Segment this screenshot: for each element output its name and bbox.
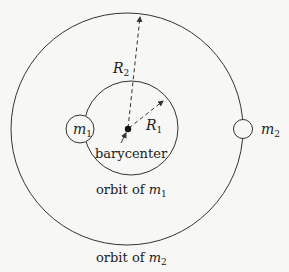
barycenter-label: barycenter	[95, 146, 168, 161]
orbit-m2-label: orbit of m2	[96, 250, 167, 267]
m2-label: m2	[261, 121, 280, 139]
barycenter-dot	[125, 126, 131, 132]
r1-label: R1	[145, 117, 162, 135]
r2-radius-arrow	[128, 17, 140, 128]
barycenter-pointer-arrow	[121, 133, 126, 143]
orbit-m1-label: orbit of m1	[96, 182, 167, 199]
r2-label: R2	[112, 60, 129, 78]
barycenter-diagram: m1 m2 R2 R1 barycenter orbit of m1 orbit…	[0, 0, 289, 272]
m2-body	[234, 120, 253, 139]
